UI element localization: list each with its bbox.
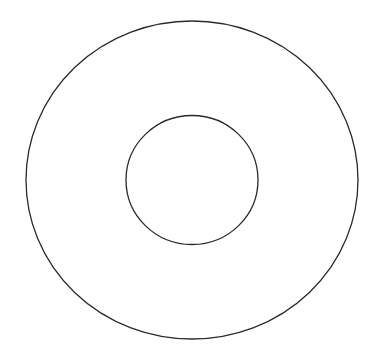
concentric-circles-diagram — [0, 0, 373, 348]
inner-circle — [126, 116, 258, 245]
outer-circle — [26, 21, 358, 339]
